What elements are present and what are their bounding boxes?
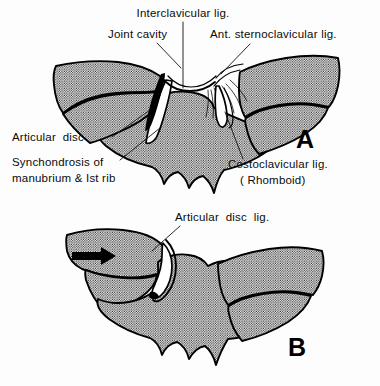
label-ant-sternoclavicular-lig: Ant. sternoclavicular lig. <box>210 28 337 40</box>
label-articular-disc: Articular disc <box>12 131 84 143</box>
panel-a-letter: A <box>296 125 314 153</box>
anatomical-figure: A Interclavicular lig. Joint cavity Ant.… <box>0 0 380 386</box>
label-costoclavicular-lig: Costoclavicular lig. <box>228 158 328 170</box>
panel-b-letter: B <box>288 333 306 361</box>
label-rhomboid: ( Rhomboid) <box>240 174 305 186</box>
panel-b-labels: Articular disc lig. <box>175 211 269 223</box>
label-synchondrosis-line2: manubrium & Ist rib <box>12 172 116 184</box>
label-joint-cavity: Joint cavity <box>108 28 167 40</box>
label-synchondrosis-line1: Synchondrosis of <box>12 156 104 168</box>
figure-canvas: A Interclavicular lig. Joint cavity Ant.… <box>0 0 380 386</box>
label-articular-disc-lig: Articular disc lig. <box>175 211 269 223</box>
label-interclavicular-lig: Interclavicular lig. <box>137 7 230 19</box>
